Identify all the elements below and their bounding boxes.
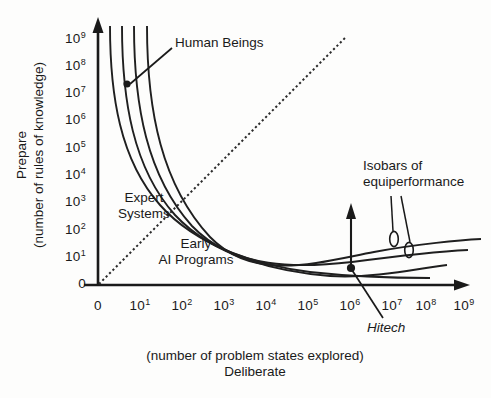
x-axis-title: (number of problem states explored) Deli… [110,348,400,380]
x-tick-label: 104 [246,298,286,314]
y-axis-title: Prepare (number of rules of knowledge) [14,20,48,290]
annotation-early-ai-programs-line2: AI Programs [152,252,240,268]
annotation-isobars-line2: equiperformance [363,174,464,190]
isobar-curve-4 [147,26,481,266]
annotation-hitech: Hitech [367,320,405,336]
y-axis-title-line1: Prepare [14,20,31,290]
annotation-early-ai-programs: Early AI Programs [152,236,240,268]
y-axis [93,17,104,285]
x-tick-label: 103 [204,298,244,314]
annotation-isobars-line1: Isobars of [363,158,464,174]
annotation-expert-systems-line1: Expert [108,190,180,206]
annotation-human-beings: Human Beings [175,35,264,51]
annotation-expert-systems: Expert Systems [108,190,180,222]
x-axis-title-line1: (number of problem states explored) [110,348,400,364]
x-tick-label: 106 [330,298,370,314]
x-tick-label: 109 [444,298,484,314]
annotation-isobars-of-equiperformance: Isobars of equiperformance [363,158,464,190]
x-tick-label: 101 [120,298,160,314]
annotation-early-ai-programs-line1: Early [152,236,240,252]
x-tick-label: 102 [162,298,202,314]
x-tick-label: 108 [406,298,446,314]
x-axis-title-line2: Deliberate [110,364,400,380]
y-axis-title-line2: (number of rules of knowledge) [31,20,48,290]
chart-figure: 109 108 107 106 105 104 103 102 101 0 0 … [0,0,491,398]
x-tick-label: 0 [78,298,118,314]
annotation-expert-systems-line2: Systems [108,206,180,222]
x-axis [84,280,470,291]
x-tick-label: 105 [288,298,328,314]
isobar-curve-3 [134,26,468,265]
